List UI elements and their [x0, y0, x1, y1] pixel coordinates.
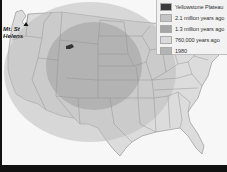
legend-label: 2.1 million years ago	[175, 15, 224, 21]
legend-swatch-1-3-million	[160, 25, 172, 33]
mt-st-helens-label: Mt. St Helens	[3, 26, 23, 39]
legend-swatch-1980	[160, 47, 172, 55]
legend-label: 1.3 million years ago	[175, 26, 224, 32]
legend-swatch-2-1-million	[160, 14, 172, 22]
legend-label: Yellowstone Plateau	[175, 4, 223, 10]
legend-item-760000: 760,000 years ago	[160, 35, 227, 46]
legend-swatch-yellowstone	[160, 3, 172, 11]
legend-label: 1980	[175, 48, 187, 54]
map-frame: Mt. St Helens Yellowstone Plateau 2.1 mi…	[2, 0, 227, 165]
legend-item-2-1-million: 2.1 million years ago	[160, 13, 227, 24]
legend-label: 760,000 years ago	[175, 37, 220, 43]
mt-st-helens-label-line2: Helens	[3, 33, 23, 40]
map-legend: Yellowstone Plateau 2.1 million years ag…	[156, 0, 227, 55]
legend-item-1-3-million: 1.3 million years ago	[160, 24, 227, 35]
legend-item-yellowstone: Yellowstone Plateau	[160, 2, 227, 13]
legend-swatch-760000	[160, 36, 172, 44]
legend-item-1980: 1980	[160, 46, 227, 57]
